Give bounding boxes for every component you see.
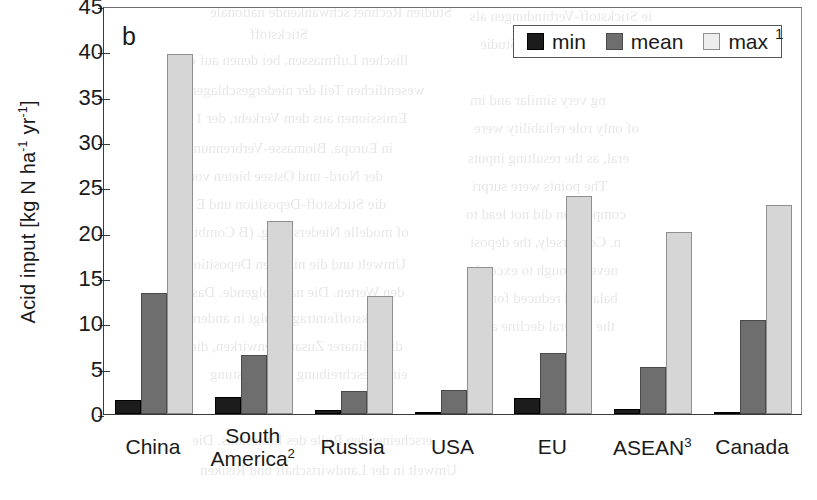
bar-min xyxy=(714,412,740,414)
legend-item-max: max xyxy=(703,31,768,52)
y-tick-mark-inner xyxy=(104,371,110,372)
bar-min xyxy=(415,412,441,414)
legend-swatch-icon xyxy=(703,33,720,50)
y-tick-label: 10 xyxy=(13,313,103,335)
bar-group xyxy=(215,8,293,414)
x-tick-label: China xyxy=(103,436,203,458)
x-tick-label-line: South xyxy=(203,425,303,447)
y-tick-label: 15 xyxy=(13,268,103,290)
bar-max xyxy=(167,54,193,414)
legend-label: min xyxy=(552,31,586,52)
bar-mean xyxy=(640,367,666,414)
x-tick-label: SouthAmerica2 xyxy=(203,425,303,470)
bar-min xyxy=(215,397,241,414)
y-tick-mark-inner xyxy=(104,144,110,145)
legend-label: mean xyxy=(631,31,684,52)
plot-area: b xyxy=(103,7,802,415)
legend-item-min: min xyxy=(527,31,586,52)
bar-min xyxy=(514,398,540,414)
y-tick-mark-inner xyxy=(104,280,110,281)
x-tick-label: Russia xyxy=(303,436,403,458)
x-tick-footnote: 2 xyxy=(288,446,295,461)
legend-item-mean: mean xyxy=(606,31,684,52)
y-tick-mark-inner xyxy=(104,235,110,236)
y-tick-mark-inner xyxy=(104,189,110,190)
bar-max xyxy=(467,267,493,414)
y-tick-label: 45 xyxy=(13,0,103,18)
bar-mean xyxy=(241,355,267,414)
y-tick-mark-inner xyxy=(104,53,110,54)
bar-group xyxy=(614,8,692,414)
bar-max xyxy=(766,205,792,414)
legend-swatch-icon xyxy=(527,33,544,50)
bar-group xyxy=(514,8,592,414)
bar-group xyxy=(415,8,493,414)
x-tick-footnote: 3 xyxy=(684,435,691,450)
x-tick-label: USA xyxy=(403,436,503,458)
bar-mean xyxy=(441,390,467,414)
bar-group xyxy=(714,8,792,414)
bar-max xyxy=(267,221,293,414)
x-tick-label-line: America2 xyxy=(203,447,303,470)
bar-max xyxy=(566,196,592,414)
bar-mean xyxy=(740,320,766,414)
legend-footnote-marker: 1 xyxy=(775,25,783,42)
y-tick-mark-inner xyxy=(104,325,110,326)
x-tick-label: ASEAN3 xyxy=(602,436,702,459)
y-tick-label: 0 xyxy=(13,404,103,426)
bar-min xyxy=(115,400,141,415)
y-tick-label: 40 xyxy=(13,41,103,63)
chart-legend: minmeanmax xyxy=(513,25,782,58)
legend-label: max xyxy=(728,31,768,52)
bar-max xyxy=(666,232,692,414)
y-tick-label: 20 xyxy=(13,223,103,245)
bar-mean xyxy=(540,353,566,414)
bar-min xyxy=(614,409,640,414)
acid-input-bar-chart: Acid input [kg N ha-1 yr-1] b 0510152025… xyxy=(0,0,817,500)
bar-mean xyxy=(141,293,167,414)
y-tick-label: 30 xyxy=(13,132,103,154)
bar-group xyxy=(115,8,193,414)
bar-mean xyxy=(341,391,367,414)
x-tick-label: EU xyxy=(502,436,602,458)
x-tick-label: Canada xyxy=(702,436,802,458)
bar-max xyxy=(367,296,393,414)
y-tick-label: 5 xyxy=(13,359,103,381)
legend-swatch-icon xyxy=(606,33,623,50)
y-tick-mark-inner xyxy=(104,99,110,100)
bar-min xyxy=(315,410,341,414)
bar-group xyxy=(315,8,393,414)
y-tick-label: 35 xyxy=(13,87,103,109)
y-tick-label: 25 xyxy=(13,177,103,199)
